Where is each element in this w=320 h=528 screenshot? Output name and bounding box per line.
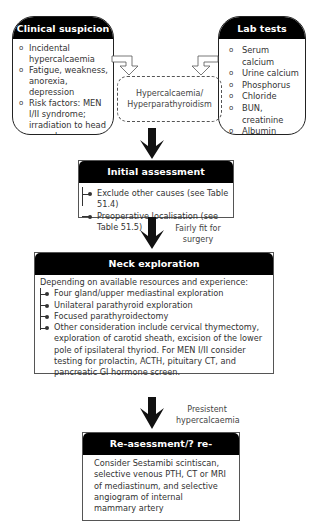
reassessment-title: Re-asessment/? re-exploration	[83, 433, 239, 455]
arrow-label-persistent-hypercalcaemia: Presistent hypercalcaemia	[176, 404, 238, 426]
reassessment-box: Re-asessment/? re-exploration Consider S…	[82, 432, 240, 521]
reassessment-body: Consider Sestamibi scintiscan, selective…	[83, 455, 239, 514]
